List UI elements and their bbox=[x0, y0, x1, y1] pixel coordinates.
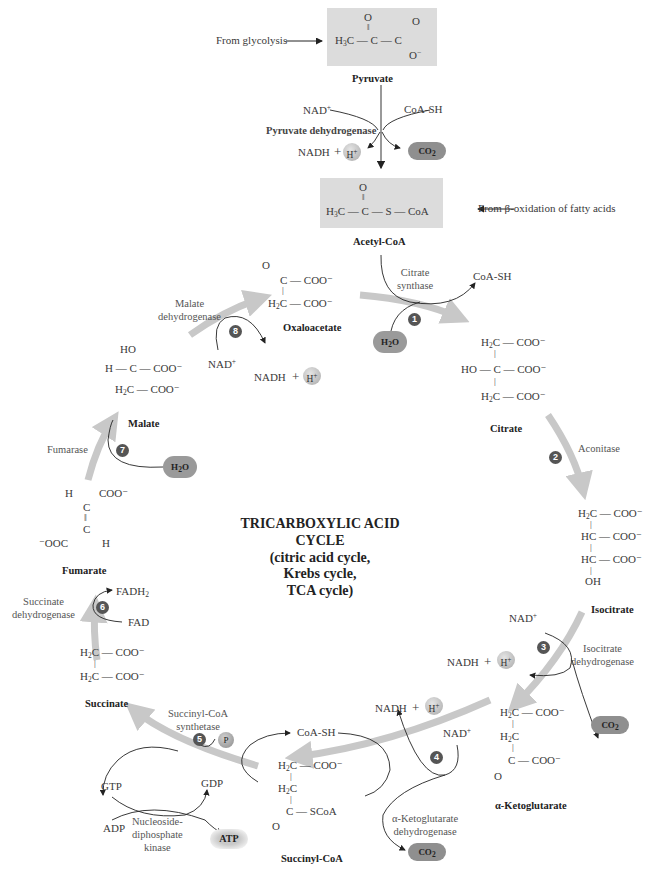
oxalo-row1: C — COO⁻ bbox=[280, 275, 333, 286]
enzyme-citrate-synthase: Citratesynthase bbox=[397, 266, 433, 292]
fumarate-c2: C bbox=[83, 524, 90, 535]
citrate-row2: HO — C — COO⁻ bbox=[461, 364, 546, 375]
succ-coa-o: O bbox=[272, 821, 280, 832]
isocitrate-row1: H2C — COO⁻ bbox=[578, 508, 643, 521]
oxaloacetate-structure: O C — COO⁻ | H2C — COO⁻ bbox=[262, 260, 362, 310]
akg-row1: H2C — COO⁻ bbox=[500, 707, 565, 720]
pyruvate-structure-box: O ‖ O H3C — C — C O− bbox=[327, 8, 437, 66]
malate-structure: HO H — C — COO⁻ H2C — COO⁻ bbox=[104, 344, 204, 404]
fadh2-label: FADH2 bbox=[116, 586, 149, 599]
succinate-row1: H2C — COO⁻ bbox=[80, 647, 145, 660]
succinate-structure: H2C — COO⁻ | H2C — COO⁻ bbox=[80, 647, 180, 687]
pyruvate-h3c: H3C — C — C bbox=[335, 35, 402, 48]
bond: | bbox=[494, 377, 496, 386]
enzyme-ndp-kinase: Nucleoside-diphosphatekinase bbox=[132, 815, 183, 854]
gtp-label: GTP bbox=[101, 781, 122, 792]
gdp-label: GDP bbox=[201, 778, 223, 789]
co2-pdh: CO2 bbox=[408, 142, 446, 160]
nad-plus-step4: NAD+ bbox=[443, 727, 471, 739]
nadh-pdh: NADH bbox=[298, 147, 330, 158]
phosphate-pi: P bbox=[218, 732, 234, 748]
pyruvate-label: Pyruvate bbox=[352, 73, 393, 84]
h2o-step7: H2O bbox=[163, 456, 197, 478]
fumarate-label: Fumarate bbox=[62, 565, 106, 576]
pyruvate-o-minus: O− bbox=[409, 49, 421, 61]
acetyl-coa-label: Acetyl-CoA bbox=[353, 236, 405, 247]
coa-sh-step5: CoA-SH bbox=[297, 727, 336, 738]
step-badge-4: 4 bbox=[430, 751, 443, 764]
enzyme-isocitrate-dehydrogenase: Isocitratedehydrogenase bbox=[571, 642, 634, 668]
isocitrate-row3: HC — COO⁻ bbox=[581, 554, 642, 565]
fumarate-structure: H COO⁻ C ‖ C ⁻OOC H bbox=[39, 488, 139, 558]
bond: | bbox=[512, 719, 514, 728]
atp-label: ATP bbox=[210, 829, 248, 849]
bond: | bbox=[94, 659, 96, 668]
bond: | bbox=[290, 795, 292, 804]
h-plus-step8: H+ bbox=[303, 367, 321, 385]
enzyme-malate-dehydrogenase: Malatedehydrogenase bbox=[158, 297, 221, 323]
step-badge-6: 6 bbox=[96, 601, 109, 614]
double-bond: ‖ bbox=[362, 193, 365, 202]
bond: | bbox=[494, 349, 496, 358]
succinyl-coa-label: Succinyl-CoA bbox=[281, 853, 343, 864]
nad-plus-pdh: NAD+ bbox=[303, 104, 331, 116]
succ-coa-row2: H2C bbox=[278, 783, 297, 796]
alpha-ketoglutarate-structure: H2C — COO⁻ | H2C | C — COO⁻ O bbox=[494, 707, 594, 787]
enzyme-pyruvate-dehydrogenase: Pyruvate dehydrogenase bbox=[266, 124, 376, 137]
malate-row2: H — C — COO⁻ bbox=[105, 363, 182, 374]
acetyl-coa-structure-box: O ‖ H3C — C — S — CoA bbox=[320, 178, 443, 228]
isocitrate-label: Isocitrate bbox=[591, 604, 634, 615]
plus-step8: + bbox=[292, 370, 299, 383]
succ-coa-row1: H2C — COO⁻ bbox=[278, 760, 343, 773]
bond: | bbox=[512, 743, 514, 752]
enzyme-succinate-dehydrogenase: Succinatedehydrogenase bbox=[12, 595, 75, 621]
step-badge-1: 1 bbox=[408, 313, 421, 326]
cycle-title: TRICARBOXYLIC ACID CYCLE (citric acid cy… bbox=[240, 516, 400, 600]
bond: | bbox=[282, 286, 284, 295]
nadh-step8: NADH bbox=[254, 372, 286, 383]
bond: | bbox=[590, 520, 592, 529]
adp-label: ADP bbox=[103, 823, 125, 834]
fumarate-ooc: ⁻OOC bbox=[39, 538, 68, 549]
h-plus-pdh: H+ bbox=[343, 143, 361, 161]
citrate-row3: H2C — COO⁻ bbox=[481, 391, 546, 404]
enzyme-aconitase: Aconitase bbox=[578, 442, 620, 455]
succinate-label: Succinate bbox=[85, 698, 128, 709]
citrate-structure: H2C — COO⁻ | HO — C — COO⁻ | H2C — COO⁻ bbox=[461, 337, 571, 407]
pyruvate-o-right: O bbox=[412, 16, 420, 27]
succinyl-coa-structure: H2C — COO⁻ | H2C | C — SCoA O bbox=[272, 760, 372, 835]
oxalo-o: O bbox=[262, 260, 270, 271]
nad-plus-step8: NAD+ bbox=[208, 358, 236, 370]
step-badge-8: 8 bbox=[229, 325, 242, 338]
double-bond: ‖ bbox=[367, 23, 370, 32]
bond: | bbox=[590, 566, 592, 575]
malate-ho: HO bbox=[120, 344, 136, 355]
citrate-label: Citrate bbox=[490, 423, 522, 434]
step-badge-5: 5 bbox=[193, 733, 206, 746]
nadh-step3: NADH bbox=[447, 657, 479, 668]
from-glycolysis-label: From glycolysis bbox=[216, 35, 287, 46]
enzyme-akg-dehydrogenase: α-Ketoglutaratedehydrogenase bbox=[392, 812, 458, 838]
akg-row3: C — COO⁻ bbox=[508, 755, 561, 766]
co2-step4: CO2 bbox=[408, 843, 446, 861]
malate-row3: H2C — COO⁻ bbox=[115, 384, 180, 397]
citrate-row1: H2C — COO⁻ bbox=[481, 337, 546, 350]
isocitrate-oh: OH bbox=[585, 576, 601, 587]
alpha-ketoglutarate-label: α-Ketoglutarate bbox=[495, 800, 567, 811]
isocitrate-row2: HC — COO⁻ bbox=[581, 531, 642, 542]
double-bond: ‖ bbox=[84, 513, 87, 523]
plus-step4: + bbox=[412, 701, 419, 714]
succ-coa-row3: C — SCoA bbox=[286, 806, 337, 817]
fad-label: FAD bbox=[128, 617, 149, 628]
nadh-step4: NADH bbox=[375, 703, 407, 714]
co2-step3: CO2 bbox=[591, 716, 629, 734]
nad-plus-step3: NAD+ bbox=[509, 612, 537, 624]
akg-row2: H2C bbox=[500, 731, 519, 744]
bond: | bbox=[290, 772, 292, 781]
step-badge-7: 7 bbox=[116, 444, 129, 457]
coa-sh-pdh: CoA-SH bbox=[404, 104, 443, 115]
fumarate-h1: H bbox=[65, 488, 73, 499]
enzyme-fumarase: Fumarase bbox=[47, 443, 88, 456]
step-badge-2: 2 bbox=[549, 451, 562, 464]
enzyme-succinyl-coa-synthetase: Succinyl-CoAsynthetase bbox=[168, 707, 228, 733]
